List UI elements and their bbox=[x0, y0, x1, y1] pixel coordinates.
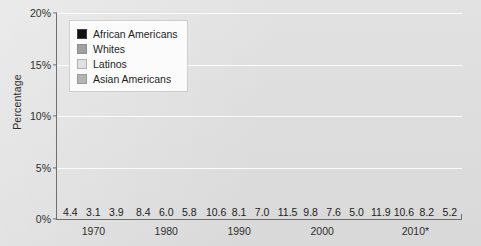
legend-item[interactable]: Latinos bbox=[77, 56, 178, 71]
legend-item[interactable]: Whites bbox=[77, 41, 178, 56]
x-axis-tick-label: 1990 bbox=[227, 225, 250, 237]
bar-value-label: 11.9 bbox=[371, 206, 391, 218]
bar-group: 11.59.87.65.02000 bbox=[276, 13, 369, 219]
chart-legend: African AmericansWhitesLatinosAsian Amer… bbox=[70, 21, 187, 91]
y-axis-title: Percentage bbox=[11, 57, 23, 147]
bar-value-label: 4.4 bbox=[63, 206, 78, 218]
y-axis-tick-label: 10% bbox=[30, 110, 51, 122]
legend-item-label: Latinos bbox=[93, 58, 127, 70]
bar-value-label: 5.0 bbox=[349, 206, 364, 218]
y-axis-tick-label: 0% bbox=[36, 213, 51, 225]
bar-value-label: 6.0 bbox=[159, 206, 174, 218]
x-axis-tick-label: 1980 bbox=[155, 225, 178, 237]
bar-value-label: 3.9 bbox=[109, 206, 124, 218]
bar-value-label: 8.1 bbox=[232, 206, 247, 218]
legend-swatch-icon bbox=[77, 59, 87, 69]
bar-value-label: 10.6 bbox=[206, 206, 226, 218]
legend-item-label: African Americans bbox=[93, 28, 178, 40]
bar-value-label: 3.1 bbox=[86, 206, 101, 218]
legend-swatch-icon bbox=[77, 74, 87, 84]
x-axis-tick-label: 2010* bbox=[402, 225, 429, 237]
bar-value-label: 5.8 bbox=[182, 206, 197, 218]
y-axis-tick-label: 20% bbox=[30, 7, 51, 19]
legend-swatch-icon bbox=[77, 29, 87, 39]
bar-value-label: 5.2 bbox=[443, 206, 458, 218]
y-axis-tick-label: 5% bbox=[36, 162, 51, 174]
bar-value-label: 8.4 bbox=[136, 206, 151, 218]
legend-item[interactable]: African Americans bbox=[77, 26, 178, 41]
bar-value-label: 9.8 bbox=[303, 206, 318, 218]
bar-value-label: 11.5 bbox=[278, 206, 298, 218]
bar-group: 10.68.17.01990 bbox=[203, 13, 276, 219]
bar-value-label: 8.2 bbox=[420, 206, 435, 218]
legend-swatch-icon bbox=[77, 44, 87, 54]
legend-item-label: Whites bbox=[93, 43, 125, 55]
legend-item-label: Asian Americans bbox=[93, 73, 171, 85]
y-axis-tick-label: 15% bbox=[30, 59, 51, 71]
bar-group: 11.910.68.25.22010* bbox=[369, 13, 462, 219]
bar-value-label: 10.6 bbox=[394, 206, 414, 218]
x-axis-tick-label: 2000 bbox=[310, 225, 333, 237]
bar-value-label: 7.6 bbox=[326, 206, 341, 218]
x-axis-tick-label: 1970 bbox=[82, 225, 105, 237]
legend-item[interactable]: Asian Americans bbox=[77, 71, 178, 86]
chart-figure: Percentage 0%5%10%15%20% 4.43.13.919708.… bbox=[0, 0, 481, 246]
bar-value-label: 7.0 bbox=[255, 206, 270, 218]
